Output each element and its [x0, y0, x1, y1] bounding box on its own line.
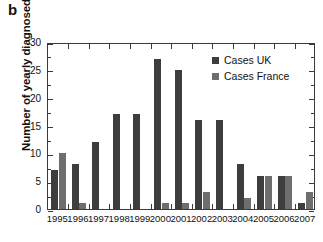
bar-cases-uk-2005 — [257, 176, 264, 209]
y-tick-label: 25 — [17, 66, 41, 76]
chart-legend: Cases UKCases France — [212, 55, 289, 87]
y-tick-label: 0 — [17, 205, 41, 215]
legend-item: Cases France — [212, 71, 289, 82]
y-tick-major-right — [309, 211, 314, 212]
bar-cases-uk-2001 — [175, 70, 182, 209]
bar-cases-france-2000 — [162, 203, 169, 209]
bar-cases-uk-2006 — [278, 176, 285, 209]
bar-cases-france-2006 — [285, 176, 292, 209]
y-tick-label: 20 — [17, 94, 41, 104]
bar-cases-france-2007 — [306, 192, 313, 209]
bar-cases-france-1996 — [79, 203, 86, 209]
figure-panel-b: b Number of yearly diagnosed cases 05101… — [0, 0, 323, 242]
bar-cases-france-1995 — [59, 153, 66, 209]
y-tick-label: 5 — [17, 177, 41, 187]
bar-cases-uk-1998 — [113, 114, 120, 209]
bar-cases-uk-1995 — [51, 170, 58, 209]
bar-cases-france-2001 — [182, 203, 189, 209]
y-tick-label: 30 — [17, 38, 41, 48]
legend-swatch-icon — [212, 73, 219, 80]
y-tick-label: 15 — [17, 122, 41, 132]
legend-swatch-icon — [212, 57, 219, 64]
x-tick-label: 2007 — [292, 213, 317, 224]
legend-label: Cases UK — [224, 55, 271, 66]
bar-cases-uk-2007 — [298, 203, 305, 209]
y-tick-major — [48, 211, 53, 212]
bar-cases-uk-1997 — [92, 142, 99, 209]
x-axis-tick-labels: 1995199619971998199920002001200220032004… — [47, 213, 315, 229]
bar-cases-uk-2000 — [154, 59, 161, 209]
bar-cases-uk-2003 — [216, 120, 223, 209]
legend-label: Cases France — [224, 71, 289, 82]
bar-cases-uk-1996 — [72, 164, 79, 209]
bar-cases-france-2004 — [244, 198, 251, 209]
legend-item: Cases UK — [212, 55, 289, 66]
bar-cases-uk-2004 — [237, 164, 244, 209]
bar-cases-uk-1999 — [133, 114, 140, 209]
y-tick-label: 10 — [17, 149, 41, 159]
bar-cases-france-2005 — [265, 176, 272, 209]
bar-cases-uk-2002 — [195, 120, 202, 209]
bar-cases-france-2002 — [203, 192, 210, 209]
